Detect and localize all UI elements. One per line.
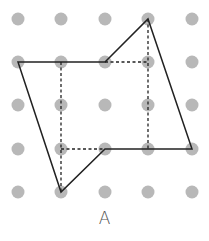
grid-dot <box>55 13 68 26</box>
dot-grid-diagram <box>0 0 209 241</box>
grid-dot <box>12 99 25 112</box>
grid-dot <box>142 186 155 199</box>
grid-dot <box>12 13 25 26</box>
grid-dot <box>55 99 68 112</box>
grid-dot <box>186 99 199 112</box>
grid-dots <box>12 13 199 199</box>
grid-dot <box>186 186 199 199</box>
figure-label: A <box>0 208 209 228</box>
grid-dot <box>99 13 112 26</box>
grid-dot <box>186 13 199 26</box>
grid-dot <box>186 56 199 69</box>
grid-dot <box>12 143 25 156</box>
grid-dot <box>99 99 112 112</box>
grid-dot <box>99 186 112 199</box>
grid-dot <box>12 186 25 199</box>
